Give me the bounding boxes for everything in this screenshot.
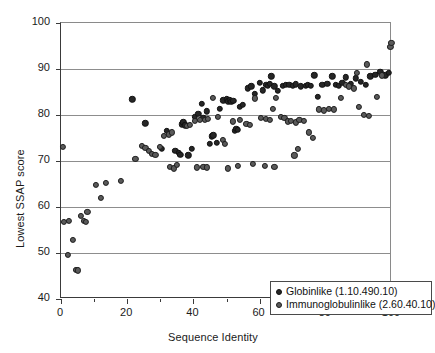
data-point <box>364 61 370 67</box>
legend-label-globinlike: Globinlike (1.10.490.10) <box>286 285 398 298</box>
x-minor-tick-30 <box>160 299 161 302</box>
gridline-y-80 <box>61 115 390 116</box>
y-tick-90 <box>56 69 61 70</box>
x-tick-label-20: 20 <box>109 306 143 318</box>
data-point <box>152 151 158 157</box>
data-point <box>271 164 277 170</box>
legend-item-immunoglobulinlike: Immunoglobulinlike (2.60.40.10) <box>276 298 427 311</box>
x-tick-label-40: 40 <box>175 306 209 318</box>
y-tick-label-40: 40 <box>16 291 50 303</box>
data-point <box>240 102 246 108</box>
data-point <box>338 94 344 100</box>
data-point <box>247 122 253 128</box>
data-point <box>329 73 335 79</box>
y-tick-80 <box>56 115 61 116</box>
data-point <box>273 94 279 100</box>
data-point <box>266 117 272 123</box>
data-point <box>354 70 360 76</box>
data-point <box>66 218 72 224</box>
y-tick-label-100: 100 <box>16 15 50 27</box>
data-point <box>291 152 297 158</box>
data-point <box>198 101 204 107</box>
data-point <box>74 267 80 273</box>
data-point <box>309 135 315 141</box>
chart-legend: Globinlike (1.10.490.10) Immunoglobulinl… <box>270 281 432 315</box>
data-point <box>185 152 191 158</box>
gridline-y-90 <box>61 69 390 70</box>
x-tick-0 <box>61 299 62 304</box>
data-point <box>252 95 258 101</box>
gridline-y-60 <box>61 207 390 208</box>
data-point <box>204 164 210 170</box>
data-point <box>374 94 380 100</box>
data-point <box>210 94 216 100</box>
data-point <box>356 104 362 110</box>
data-point <box>331 106 337 112</box>
data-point <box>65 252 71 258</box>
data-point <box>207 140 213 146</box>
data-point <box>103 180 109 186</box>
data-point <box>142 120 148 126</box>
data-point <box>250 161 256 167</box>
y-tick-100 <box>56 23 61 24</box>
x-minor-tick-10 <box>94 299 95 302</box>
legend-label-immunoglobulinlike: Immunoglobulinlike (2.60.40.10) <box>286 298 435 311</box>
data-point <box>69 237 75 243</box>
data-point <box>222 140 228 146</box>
data-point <box>235 127 241 133</box>
data-point <box>268 73 274 79</box>
data-point <box>93 182 99 188</box>
data-point <box>248 83 254 89</box>
legend-marker-globinlike-icon <box>276 289 282 295</box>
y-tick-60 <box>56 207 61 208</box>
data-point <box>203 108 209 114</box>
data-point <box>174 162 180 168</box>
x-axis-title: Sequence Identity <box>0 331 426 343</box>
legend-item-globinlike: Globinlike (1.10.490.10) <box>276 285 427 298</box>
data-point <box>194 164 200 170</box>
data-point <box>217 105 223 111</box>
data-point <box>388 40 394 46</box>
x-tick-label-0: 0 <box>43 306 77 318</box>
y-axis-title: Lowest SSAP score <box>14 48 26 248</box>
data-point <box>215 114 221 120</box>
data-point <box>237 117 243 123</box>
data-point <box>308 83 314 89</box>
y-tick-label-70: 70 <box>16 153 50 165</box>
legend-marker-immunoglobulinlike-icon <box>276 302 282 308</box>
data-point <box>270 105 276 111</box>
x-tick-20 <box>127 299 128 304</box>
x-minor-tick-50 <box>227 299 228 302</box>
data-point <box>230 98 236 104</box>
data-point <box>301 117 307 123</box>
gridline-y-70 <box>61 161 390 162</box>
y-tick-label-90: 90 <box>16 61 50 73</box>
data-point <box>342 74 348 80</box>
data-point <box>314 94 320 100</box>
y-tick-label-80: 80 <box>16 107 50 119</box>
data-point <box>210 132 216 138</box>
data-point <box>366 113 372 119</box>
data-point <box>230 118 236 124</box>
data-point <box>385 69 391 75</box>
data-point <box>295 146 301 152</box>
data-point <box>169 129 175 135</box>
plot-area: Globinlike (1.10.490.10) Immunoglobulinl… <box>60 22 391 298</box>
gridline-y-50 <box>61 253 390 254</box>
data-point <box>311 72 317 78</box>
data-point <box>83 219 89 225</box>
y-tick-label-50: 50 <box>16 245 50 257</box>
y-tick-50 <box>56 253 61 254</box>
data-point <box>60 144 66 150</box>
data-point <box>235 163 241 169</box>
data-point <box>362 81 368 87</box>
data-point <box>129 96 135 102</box>
x-tick-60 <box>260 299 261 304</box>
data-point <box>177 151 183 157</box>
data-point <box>351 85 357 91</box>
data-point <box>84 209 90 215</box>
data-point <box>205 116 211 122</box>
data-point <box>275 88 281 94</box>
data-point <box>213 139 219 145</box>
